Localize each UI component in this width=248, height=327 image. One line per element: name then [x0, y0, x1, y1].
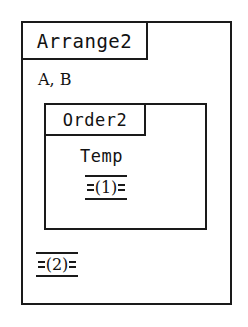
ref-left-dashes-icon	[38, 261, 45, 268]
ref-right-dashes-icon	[118, 184, 125, 191]
inner-module-name-tab: Order2	[44, 103, 146, 136]
inner-module-name: Order2	[63, 110, 127, 130]
diagram-canvas: Arrange2 A, B Order2 Temp (1) (2)	[0, 0, 248, 327]
ref-row: (2)	[38, 256, 77, 273]
ref-rule-bottom-icon	[36, 275, 78, 277]
reference-marker-2: (2)	[36, 252, 78, 277]
inner-module-variable: Temp	[80, 146, 123, 166]
reference-marker-1-label: (1)	[94, 180, 119, 196]
outer-module-name-tab: Arrange2	[21, 21, 148, 60]
ref-left-dashes-icon	[87, 184, 94, 191]
ref-rule-bottom-icon	[85, 198, 127, 200]
ref-right-dashes-icon	[69, 261, 76, 268]
reference-marker-2-label: (2)	[45, 257, 70, 273]
reference-marker-1: (1)	[85, 175, 127, 200]
outer-module-parameters: A, B	[38, 70, 71, 89]
ref-row: (1)	[87, 179, 126, 196]
ref-rule-top-icon	[36, 252, 78, 254]
outer-module-name: Arrange2	[37, 30, 133, 52]
ref-rule-top-icon	[85, 175, 127, 177]
